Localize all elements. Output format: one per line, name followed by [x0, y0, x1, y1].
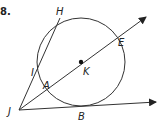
label-e: E: [118, 37, 125, 48]
geometry-diagram: 8. H E K I A J B: [0, 0, 163, 125]
label-k: K: [83, 66, 91, 77]
label-b: B: [78, 111, 85, 122]
label-a: A: [42, 80, 50, 91]
label-h: H: [56, 6, 64, 17]
problem-number: 8.: [0, 6, 11, 17]
tangent-ray-jb: [19, 102, 156, 110]
center-point-k: [79, 60, 83, 64]
label-i: I: [31, 67, 34, 78]
label-j: J: [6, 106, 11, 117]
